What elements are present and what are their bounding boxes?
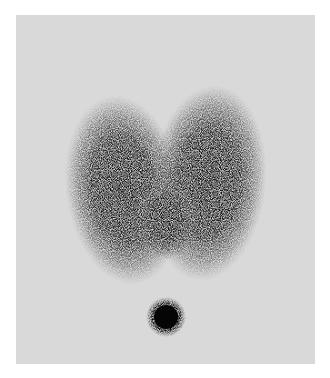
isthmus [134,180,198,260]
scintigram-image [16,15,315,364]
marker-dot-core [154,305,178,329]
scintigram-svg [16,15,315,364]
